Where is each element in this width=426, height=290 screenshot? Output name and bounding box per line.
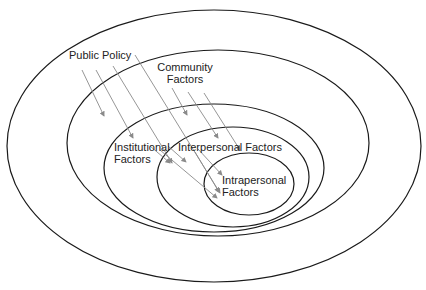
label-interpersonal-factors: Interpersonal Factors xyxy=(178,141,282,153)
label-institutional-factors: Institutional Factors xyxy=(114,141,170,165)
label-intrapersonal-line1: Intrapersonal xyxy=(222,174,286,186)
label-public-policy: Public Policy xyxy=(69,49,131,61)
arrow-policy-2 xyxy=(96,70,133,138)
label-community-line2: Factors xyxy=(150,73,220,85)
label-institutional-line1: Institutional xyxy=(114,141,170,153)
ellipse-institutional xyxy=(104,104,324,232)
label-institutional-line2: Factors xyxy=(114,153,170,165)
arrow-policy-1 xyxy=(82,70,104,116)
label-intrapersonal-line2: Factors xyxy=(222,186,286,198)
label-community-factors: Community Factors xyxy=(150,61,220,85)
arrow-interpersonal-2 xyxy=(195,152,219,192)
label-community-line1: Community xyxy=(150,61,220,73)
arrow-community-1 xyxy=(172,88,187,115)
label-intrapersonal-factors: Intrapersonal Factors xyxy=(222,174,286,198)
